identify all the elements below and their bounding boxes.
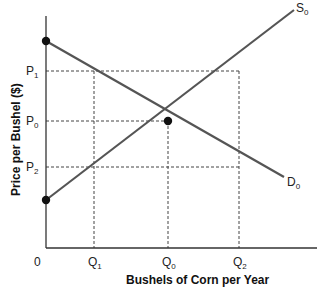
y-tick-p0: P0 (26, 114, 39, 130)
y-tick-p2: P2 (26, 160, 39, 176)
x-tick-q1: Q1 (88, 255, 102, 271)
d0-label: D0 (287, 175, 301, 191)
demand-intercept-point (42, 37, 50, 45)
x-tick-q2: Q2 (233, 255, 247, 271)
y-axis-title: Price per Bushel ($) (9, 83, 23, 196)
supply-demand-chart: S0 D0 P1 P0 P2 0 Q1 Q0 Q2 Bushels of Cor… (0, 0, 329, 296)
reference-lines (46, 71, 239, 248)
y-tick-p1: P1 (26, 64, 39, 80)
equilibrium-point (164, 117, 172, 125)
x-axis-title: Bushels of Corn per Year (126, 273, 269, 287)
x-tick-q0: Q0 (162, 255, 176, 271)
supply-intercept-point (42, 196, 50, 204)
supply-curve-s0 (46, 10, 294, 200)
origin-label: 0 (34, 255, 41, 269)
s0-label: S0 (296, 1, 309, 17)
